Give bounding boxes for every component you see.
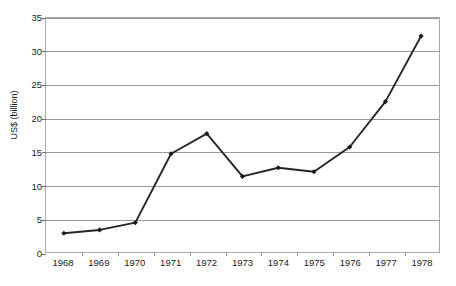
y-tick-mark-0 — [42, 254, 46, 255]
y-tick-label-15: 15 — [8, 148, 42, 158]
series-line-1 — [46, 18, 439, 252]
y-tick-label-25: 25 — [8, 81, 42, 91]
y-tick-label-35: 35 — [8, 13, 42, 23]
y-tick-label-30: 30 — [8, 47, 42, 57]
line-chart-figure: US$ (billion) 05101520253035 19681969197… — [0, 0, 456, 286]
x-tick-mark-2 — [118, 252, 119, 256]
y-tick-label-0: 0 — [8, 249, 42, 259]
plot-area: 05101520253035 — [45, 17, 440, 253]
x-tick-mark-3 — [154, 252, 155, 256]
x-tick-mark-1 — [82, 252, 83, 256]
series-polyline — [64, 36, 421, 233]
x-tick-mark-9 — [369, 252, 370, 256]
x-tick-label-1976: 1976 — [340, 258, 361, 268]
x-tick-mark-4 — [190, 252, 191, 256]
x-tick-label-1977: 1977 — [376, 258, 397, 268]
y-tick-label-5: 5 — [8, 216, 42, 226]
x-tick-mark-8 — [333, 252, 334, 256]
y-tick-label-10: 10 — [8, 182, 42, 192]
x-tick-label-1970: 1970 — [124, 258, 145, 268]
data-point-1969 — [97, 227, 102, 232]
x-tick-mark-5 — [226, 252, 227, 256]
x-tick-label-1975: 1975 — [304, 258, 325, 268]
x-tick-label-1971: 1971 — [160, 258, 181, 268]
x-tick-label-1968: 1968 — [52, 258, 73, 268]
chart-title — [45, 0, 440, 2]
x-tick-mark-10 — [405, 252, 406, 256]
x-tick-mark-6 — [261, 252, 262, 256]
x-tick-label-1974: 1974 — [268, 258, 289, 268]
x-tick-mark-7 — [297, 252, 298, 256]
data-point-1974 — [276, 165, 281, 170]
data-point-1968 — [61, 231, 66, 236]
x-tick-label-1973: 1973 — [232, 258, 253, 268]
x-tick-label-1978: 1978 — [411, 258, 432, 268]
x-tick-label-1969: 1969 — [88, 258, 109, 268]
y-tick-label-20: 20 — [8, 114, 42, 124]
x-tick-label-1972: 1972 — [196, 258, 217, 268]
